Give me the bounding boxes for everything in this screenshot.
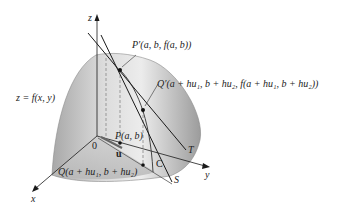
point-q-label: Q(a + hu₁, b + hu₂) [58, 166, 138, 178]
surface-label: z = f(x, y) [15, 92, 56, 104]
point-p-prime-label: P′(a, b, f(a, b)) [131, 39, 192, 51]
point-p-label: P(a, b) [114, 130, 143, 142]
point-p-prime [118, 68, 122, 72]
point-q-prime [141, 108, 145, 112]
origin-label: 0 [92, 140, 97, 151]
point-q [141, 163, 145, 167]
curve-c-label: C [156, 158, 163, 169]
z-axis-arrow-icon [95, 14, 100, 21]
point-p [118, 141, 122, 145]
point-q-prime-label: Q′(a + hu₁, b + hu₂, f(a + hu₁, b + hu₂)… [157, 78, 319, 90]
secant-label: S [174, 174, 179, 185]
x-axis-label: x [30, 193, 36, 204]
z-axis-label: z [87, 12, 92, 23]
vector-u-label: u [116, 148, 122, 159]
directional-derivative-diagram: z x y 0 C u T S P′(a, b, f(a, b)) Q′(a +… [0, 0, 346, 213]
y-axis-label: y [204, 169, 210, 180]
